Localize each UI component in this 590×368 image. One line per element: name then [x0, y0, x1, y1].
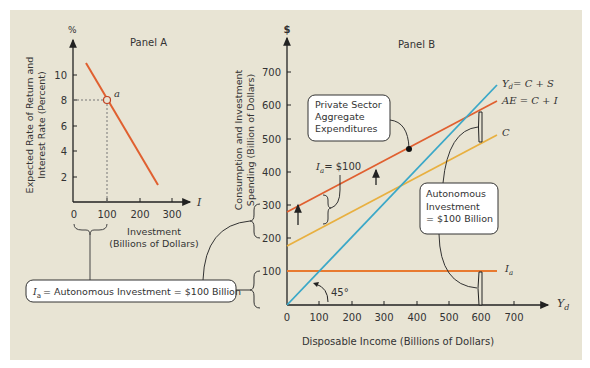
angle-label: 45°	[331, 287, 349, 298]
ia-note: Ia= $100	[315, 161, 361, 175]
panel-a-brace	[74, 224, 107, 235]
panel-a-title: Panel A	[130, 37, 167, 48]
y-brace-200-300-connector	[203, 221, 250, 280]
svg-text:200: 200	[130, 209, 149, 220]
svg-text:Expected Rate of Return and: Expected Rate of Return and	[24, 57, 35, 194]
svg-text:0: 0	[284, 312, 290, 323]
svg-text:Expenditures: Expenditures	[315, 123, 377, 134]
panel-a-y-unit: %	[68, 25, 77, 35]
svg-text:100: 100	[262, 266, 281, 277]
panel-b-title: Panel B	[398, 39, 435, 50]
svg-text:100: 100	[97, 209, 116, 220]
svg-text:6: 6	[61, 121, 67, 132]
panel-b-y-label: Consumption and Investment Spending (Bil…	[233, 69, 256, 210]
y-brace-0-100	[250, 271, 260, 308]
ia-shift-connector	[331, 175, 340, 208]
svg-text:300: 300	[162, 209, 181, 220]
ia-line-label: Ia	[504, 263, 513, 277]
svg-text:400: 400	[262, 167, 281, 178]
panel-a-x-symbol: I	[196, 196, 202, 209]
point-a-marker	[104, 97, 111, 104]
svg-text:4: 4	[61, 146, 67, 157]
callout-private-connector	[390, 120, 409, 148]
ae-line-label: AE = C + I	[501, 95, 559, 106]
svg-text:Investment: Investment	[426, 201, 480, 212]
point-a-label: a	[114, 88, 120, 99]
panel-b: Panel B $ Yd 700 600 500 400 300 200 100	[203, 24, 569, 347]
figure-svg: Panel A % I 10 8 6 4 2 0 100 200 300	[0, 0, 590, 368]
svg-text:0: 0	[71, 209, 77, 220]
svg-text:500: 500	[439, 312, 458, 323]
svg-text:500: 500	[262, 134, 281, 145]
angle-arc	[316, 284, 328, 302]
panel-b-y-unit: $	[284, 24, 291, 35]
svg-text:8: 8	[61, 95, 67, 106]
lower-bracket	[478, 272, 482, 305]
investment-demand-line	[86, 63, 158, 185]
y-brace-200-300	[250, 204, 260, 238]
svg-text:Interest Rate (Percent): Interest Rate (Percent)	[36, 71, 47, 179]
svg-text:200: 200	[342, 312, 361, 323]
svg-text:200: 200	[262, 233, 281, 244]
panel-b-x-symbol: Yd	[557, 297, 569, 312]
svg-text:Autonomous: Autonomous	[426, 188, 486, 199]
c-line-label: C	[502, 127, 510, 138]
svg-text:Private Sector: Private Sector	[315, 99, 382, 110]
autonomous-investment-box: Ia= Autonomous Investment = $100 Billion	[26, 280, 241, 302]
svg-text:600: 600	[262, 100, 281, 111]
svg-text:Aggregate: Aggregate	[315, 111, 365, 122]
panel-a-x-label-2: (Billions of Dollars)	[109, 238, 199, 249]
svg-text:Consumption and Investment: Consumption and Investment	[233, 69, 244, 210]
panel-a-y-label: Expected Rate of Return and Interest Rat…	[24, 57, 47, 194]
private-sector-dot	[406, 146, 412, 152]
panel-a-x-ticks: 0 100 200 300	[71, 198, 182, 220]
ia-shift-brace	[323, 195, 331, 224]
svg-text:100: 100	[309, 312, 328, 323]
yd-line-label: Yd= C + S	[502, 78, 554, 91]
svg-text:2: 2	[61, 172, 67, 183]
panel-a: Panel A % I 10 8 6 4 2 0 100 200 300	[24, 25, 202, 280]
panel-a-x-label-1: Investment	[127, 226, 181, 237]
svg-text:300: 300	[374, 312, 393, 323]
svg-text:400: 400	[407, 312, 426, 323]
callout-auto-connector-bottom	[439, 234, 477, 288]
panel-b-x-label: Disposable Income (Billions of Dollars)	[302, 336, 494, 347]
svg-text:= $100 Billion: = $100 Billion	[426, 213, 493, 224]
svg-text:700: 700	[262, 67, 281, 78]
svg-text:Spending (Billion of Dollars): Spending (Billion of Dollars)	[245, 74, 256, 206]
svg-text:300: 300	[262, 200, 281, 211]
svg-text:700: 700	[504, 312, 523, 323]
upper-bracket	[479, 112, 483, 142]
panel-b-x-ticks: 0 100 200 300 400 500 600 700	[284, 301, 524, 323]
svg-text:600: 600	[471, 312, 490, 323]
svg-text:10: 10	[54, 70, 67, 81]
